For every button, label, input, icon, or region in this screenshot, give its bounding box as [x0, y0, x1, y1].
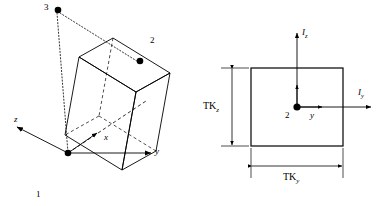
section-node-2-dot [293, 103, 300, 110]
dimension-tky-label: TKy [283, 172, 299, 185]
inertia-z-label: Iz [302, 28, 308, 39]
inertia-y-label: Iy [358, 88, 364, 99]
axis-x-label: x [104, 133, 108, 142]
dimension-tkz [221, 68, 249, 146]
figure-canvas [0, 0, 377, 206]
axis-z-label: z [14, 115, 18, 124]
dimension-tky-symbol: TK [283, 171, 296, 182]
line-node3-to-node1 [57, 13, 68, 153]
inertia-y-subscript: y [361, 92, 364, 99]
line-node3-to-node2 [60, 13, 140, 63]
beam-local-axes [17, 127, 151, 153]
section-axis-y-label: y [310, 111, 314, 120]
node-1-label: 1 [36, 190, 41, 199]
node-2-dot [137, 58, 144, 65]
orientation-node-lines [57, 13, 140, 153]
node-2-label: 2 [150, 36, 155, 45]
beam-element-figure: 3 2 1 x y z 2 y Iz Iy TKz TKy [0, 0, 377, 206]
section-local-axes [297, 85, 322, 107]
dimension-tky-subscript: y [296, 177, 299, 185]
axis-z-arrow [17, 127, 68, 153]
node-3-label: 3 [44, 3, 49, 12]
axis-x-arrow [68, 133, 97, 153]
section-node-2-label: 2 [285, 111, 290, 120]
dimension-tkz-symbol: TK [203, 100, 216, 111]
node-1-dot [65, 150, 72, 157]
dimension-tkz-label: TKz [203, 101, 219, 114]
prism-hidden-edges [65, 38, 156, 151]
node-3-dot [55, 7, 62, 14]
inertia-z-subscript: z [305, 32, 308, 39]
axis-y-label: y [155, 147, 159, 156]
dimension-tkz-subscript: z [216, 106, 219, 114]
